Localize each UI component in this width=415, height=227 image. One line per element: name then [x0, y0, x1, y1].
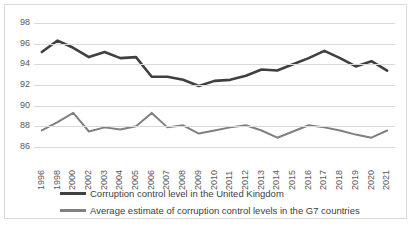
y-axis-tick-label: 96 — [6, 39, 30, 48]
series-line-uk — [42, 41, 387, 86]
y-axis-tick-label: 88 — [6, 121, 30, 130]
y-axis-tick-label: 86 — [6, 142, 30, 151]
legend-label-g7: Average estimate of corruption control l… — [90, 206, 360, 216]
legend-swatch-uk — [60, 192, 86, 196]
gridline — [34, 106, 395, 107]
gridline — [34, 64, 395, 65]
legend-label-uk: Corruption control level in the United K… — [90, 189, 284, 199]
gridline — [34, 23, 395, 24]
y-axis-tick-label: 90 — [6, 101, 30, 110]
series-line-g7 — [42, 113, 387, 138]
chart-container: 98969492908886 1996199820002002200320042… — [4, 4, 407, 219]
gridline — [34, 85, 395, 86]
y-axis-tick-label: 98 — [6, 18, 30, 27]
gridline — [34, 126, 395, 127]
plot-area — [34, 23, 395, 147]
chart-legend: Corruption control level in the United K… — [5, 185, 408, 219]
y-axis-tick-label: 94 — [6, 59, 30, 68]
gridline — [34, 147, 395, 148]
legend-item-g7: Average estimate of corruption control l… — [5, 202, 408, 219]
gridline — [34, 44, 395, 45]
y-axis-tick-label: 92 — [6, 80, 30, 89]
legend-swatch-g7 — [60, 209, 86, 212]
x-axis: 1996199820002002200320042005200620072008… — [34, 149, 395, 183]
legend-item-uk: Corruption control level in the United K… — [5, 185, 408, 202]
